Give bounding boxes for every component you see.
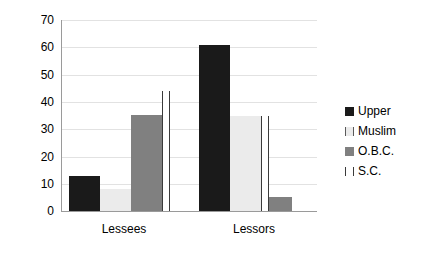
x-category-label-lessees: Lessees xyxy=(69,222,179,236)
legend-item-sc: S.C. xyxy=(345,161,423,181)
x-axis-line xyxy=(61,211,317,212)
y-tick-label-0: 0 xyxy=(8,205,54,217)
legend-swatch-obc-icon xyxy=(345,147,354,156)
legend-label-obc: O.B.C. xyxy=(358,145,394,157)
bar-group-lessees xyxy=(69,20,179,211)
legend-item-obc: O.B.C. xyxy=(345,141,423,161)
legend-swatch-upper-icon xyxy=(345,107,354,116)
y-tick-label-10: 10 xyxy=(8,178,54,190)
legend-label-muslim: Muslim xyxy=(358,125,396,137)
legend-item-muslim: Muslim xyxy=(345,121,423,141)
y-tick-label-30: 30 xyxy=(8,123,54,135)
bar-lessors-upper xyxy=(199,45,230,211)
y-tick-label-60: 60 xyxy=(8,41,54,53)
bar-lessees-upper xyxy=(69,176,100,211)
chart-legend: Upper Muslim O.B.C. S.C. xyxy=(345,101,423,181)
bar-lessors-sc xyxy=(261,116,269,211)
bar-lessors-muslim xyxy=(230,116,261,211)
plot-area xyxy=(61,20,317,211)
y-tick-label-20: 20 xyxy=(8,151,54,163)
legend-label-upper: Upper xyxy=(358,105,391,117)
y-axis-tick-labels: 70 60 50 40 30 20 10 0 xyxy=(8,20,54,211)
legend-label-sc: S.C. xyxy=(358,165,381,177)
bar-group-lessors xyxy=(199,20,309,211)
bar-chart: 70 60 50 40 30 20 10 0 Lessees Lessors U… xyxy=(0,0,425,254)
legend-swatch-muslim-icon xyxy=(345,127,354,136)
legend-item-upper: Upper xyxy=(345,101,423,121)
bar-lessees-muslim xyxy=(100,189,131,211)
bar-lessees-obc xyxy=(131,115,162,211)
x-category-label-lessors: Lessors xyxy=(199,222,309,236)
legend-swatch-sc-icon xyxy=(345,167,354,176)
y-tick-label-70: 70 xyxy=(8,14,54,26)
y-axis-line xyxy=(61,20,62,212)
y-tick-label-40: 40 xyxy=(8,96,54,108)
bar-lessees-sc xyxy=(162,91,170,211)
y-tick-label-50: 50 xyxy=(8,69,54,81)
